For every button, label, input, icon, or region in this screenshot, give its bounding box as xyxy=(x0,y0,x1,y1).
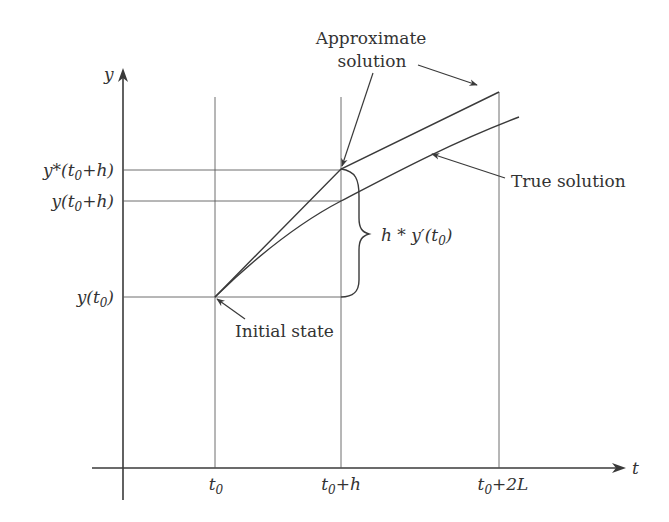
initial-state-pointer-arrow-icon xyxy=(217,299,245,319)
true-solution-label: True solution xyxy=(511,171,626,191)
y-tick-y-t0: y(t0) xyxy=(76,287,114,310)
x-axis-label: t xyxy=(632,458,639,478)
x-tick-t0-plus-h: t0+h xyxy=(321,474,361,497)
true-solution-pointer-arrow-icon xyxy=(432,154,505,178)
initial-state-label: Initial state xyxy=(235,321,334,341)
approx-pointer-arrow-icon xyxy=(342,73,373,166)
y-axis xyxy=(118,68,128,500)
x-tick-t0: t0 xyxy=(209,474,224,497)
step-size-label: h * y′(t0) xyxy=(381,225,452,248)
approximate-label-line1: Approximate xyxy=(315,28,427,48)
y-axis-label: y xyxy=(103,64,114,84)
approx-line-pointer-arrow-icon xyxy=(418,65,477,85)
approximate-label-line2: solution xyxy=(338,51,407,71)
y-tick-ystar-t0-plus-h: y*(t0+h) xyxy=(42,160,114,183)
x-tick-t0-plus-2L: t0+2L xyxy=(478,474,529,497)
true-solution-curve xyxy=(215,117,519,297)
euler-method-diagram: y t Approximate solution True solution I… xyxy=(0,0,669,522)
x-axis xyxy=(92,463,626,473)
y-tick-y-t0-plus-h: y(t0+h) xyxy=(50,191,114,214)
